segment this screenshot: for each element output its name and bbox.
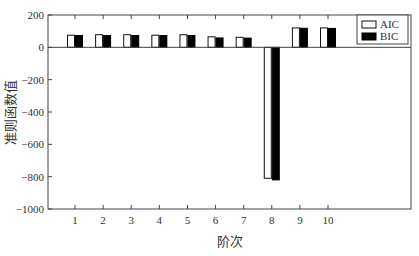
- y-axis-label: 准则函数值: [3, 80, 18, 145]
- x-tick-label: 5: [185, 214, 191, 226]
- x-tick-label: 8: [269, 214, 275, 226]
- y-tick-label: −600: [21, 138, 44, 150]
- chart-canvas: 2000−200−400−600−800−1000 12345678910 AI…: [0, 0, 419, 256]
- bar-bic: [160, 36, 167, 48]
- y-tick-label: −400: [21, 106, 44, 118]
- legend: AICBIC: [357, 15, 408, 44]
- bar-bic: [272, 47, 279, 180]
- x-axis-label: 阶次: [217, 234, 243, 249]
- x-tick-label: 3: [128, 214, 134, 226]
- bar-series: [68, 28, 336, 180]
- bar-aic: [152, 35, 159, 47]
- bar-bic: [329, 28, 336, 47]
- bar-bic: [244, 38, 251, 47]
- legend-swatch-aic: [362, 21, 376, 28]
- legend-label-bic: BIC: [380, 30, 398, 42]
- bar-aic: [264, 47, 271, 178]
- x-tick-label: 7: [241, 214, 247, 226]
- y-tick-label: 200: [28, 9, 45, 21]
- bar-aic: [124, 35, 131, 48]
- x-tick-label: 6: [213, 214, 219, 226]
- y-axis: 2000−200−400−600−800−1000: [16, 9, 52, 215]
- bar-aic: [68, 35, 75, 47]
- bar-aic: [236, 37, 243, 47]
- bar-aic: [180, 35, 187, 48]
- bar-aic: [292, 28, 299, 47]
- bar-chart: 2000−200−400−600−800−1000 12345678910 AI…: [0, 0, 419, 256]
- bar-bic: [104, 36, 111, 48]
- bar-bic: [188, 36, 195, 48]
- y-tick-label: −200: [21, 74, 44, 86]
- bar-bic: [300, 28, 307, 47]
- y-tick-label: −800: [21, 171, 44, 183]
- bar-bic: [216, 38, 223, 47]
- bar-bic: [132, 36, 139, 48]
- bar-aic: [208, 37, 215, 48]
- x-tick-label: 10: [323, 214, 335, 226]
- bar-aic: [321, 28, 328, 47]
- x-tick-label: 2: [100, 214, 106, 226]
- y-tick-label: 0: [39, 41, 45, 53]
- bar-bic: [76, 36, 83, 48]
- legend-swatch-bic: [362, 33, 376, 40]
- legend-label-aic: AIC: [380, 18, 399, 30]
- x-tick-label: 4: [157, 214, 163, 226]
- x-tick-label: 9: [297, 214, 303, 226]
- x-tick-label: 1: [72, 214, 78, 226]
- y-tick-label: −1000: [16, 203, 45, 215]
- bar-aic: [96, 35, 103, 48]
